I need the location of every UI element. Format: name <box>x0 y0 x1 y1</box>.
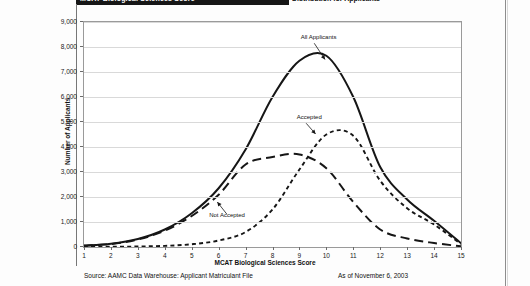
y-tick-mark <box>80 96 83 97</box>
x-tick-label: 6 <box>209 252 229 259</box>
x-tick-label: 14 <box>424 252 444 259</box>
x-tick-label: 13 <box>397 252 417 259</box>
x-tick-label: 8 <box>263 252 283 259</box>
x-tick-mark <box>219 247 220 250</box>
x-tick-mark <box>434 247 435 250</box>
annotation-not-accepted: Not Accepted <box>209 212 245 218</box>
plot-area: All ApplicantsAcceptedNot Accepted <box>83 21 462 248</box>
y-tick-label: 2,000 <box>61 193 77 200</box>
x-tick-mark <box>165 247 166 250</box>
x-tick-mark <box>461 247 462 250</box>
annotation-arrowhead <box>217 202 221 207</box>
x-tick-mark <box>273 247 274 250</box>
x-tick-label: 9 <box>289 252 309 259</box>
source-note: Source: AAMC Data Warehouse: Applicant M… <box>84 272 253 279</box>
x-axis-title: MCAT Biological Sciences Score <box>0 259 530 266</box>
figure-page: MCAT Biological Sciences Score Distribut… <box>0 0 530 286</box>
y-axis-title: Number of Applicants <box>64 98 71 165</box>
annotation-accepted: Accepted <box>297 114 322 120</box>
x-tick-mark <box>192 247 193 250</box>
y-tick-label: 9,000 <box>61 18 77 25</box>
y-tick-label: 8,000 <box>61 43 77 50</box>
as-of-date: As of November 6, 2003 <box>338 272 408 279</box>
x-tick-label: 4 <box>155 252 175 259</box>
annotation-leaders <box>84 22 461 247</box>
y-tick-mark <box>80 171 83 172</box>
y-tick-mark <box>80 246 83 247</box>
x-tick-mark <box>246 247 247 250</box>
x-tick-mark <box>353 247 354 250</box>
annotation-arrowhead <box>321 55 325 60</box>
x-tick-mark <box>111 247 112 250</box>
y-tick-mark <box>80 196 83 197</box>
x-tick-mark <box>299 247 300 250</box>
x-tick-mark <box>407 247 408 250</box>
y-tick-mark <box>80 221 83 222</box>
x-tick-label: 1 <box>74 252 94 259</box>
x-tick-label: 12 <box>370 252 390 259</box>
y-tick-mark <box>80 46 83 47</box>
x-tick-label: 10 <box>316 252 336 259</box>
y-tick-mark <box>80 71 83 72</box>
x-tick-label: 11 <box>343 252 363 259</box>
x-tick-label: 5 <box>182 252 202 259</box>
x-tick-mark <box>84 247 85 250</box>
y-tick-mark <box>80 121 83 122</box>
y-tick-label: 0 <box>73 243 77 250</box>
annotation-all-applicants: All Applicants <box>301 34 337 40</box>
y-tick-label: 7,000 <box>61 68 77 75</box>
x-tick-label: 7 <box>236 252 256 259</box>
y-tick-mark <box>80 146 83 147</box>
x-tick-mark <box>380 247 381 250</box>
x-tick-mark <box>326 247 327 250</box>
x-tick-label: 15 <box>451 252 471 259</box>
x-tick-label: 3 <box>128 252 148 259</box>
y-tick-label: 1,000 <box>61 218 77 225</box>
x-tick-label: 2 <box>101 252 121 259</box>
chart-container: All ApplicantsAcceptedNot Accepted 01,00… <box>0 0 530 286</box>
x-tick-mark <box>138 247 139 250</box>
y-tick-mark <box>80 21 83 22</box>
y-tick-label: 3,000 <box>61 168 77 175</box>
